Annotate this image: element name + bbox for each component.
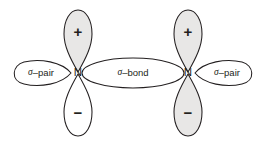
sigma-bond-label: σ–bond <box>117 67 148 78</box>
orbital-diagram: + − σ–pair N σ–bond + <box>0 0 267 154</box>
lobe-left-sigma-pair-label: σ–pair <box>28 67 54 78</box>
atom-label-right: N <box>184 66 192 78</box>
sigma-suffix-left-pair: –pair <box>33 67 54 78</box>
orbital-diagram-canvas: + − σ–pair N σ–bond + <box>0 0 267 154</box>
sigma-suffix-bond: –bond <box>122 67 148 78</box>
lobe-left-top-sign: + <box>74 23 83 40</box>
lobe-left-bottom-sign: − <box>74 104 83 121</box>
lobe-right-top-sign: + <box>184 23 193 40</box>
atom-label-left: N <box>74 66 82 78</box>
lobe-right-bottom-sign: − <box>184 104 193 121</box>
sigma-suffix-right-pair: –pair <box>219 67 240 78</box>
sigma-bond-group: σ–bond <box>82 58 184 88</box>
lobe-right-sigma-pair-label: σ–pair <box>214 67 240 78</box>
